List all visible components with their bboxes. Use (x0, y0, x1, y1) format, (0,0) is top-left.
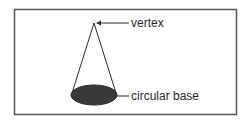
circular-base-label: circular base (131, 89, 199, 103)
diagram-frame (15, 10, 237, 115)
cone-diagram: vertex circular base (0, 0, 251, 124)
vertex-label: vertex (131, 16, 164, 30)
circular-base-shape (71, 85, 117, 105)
